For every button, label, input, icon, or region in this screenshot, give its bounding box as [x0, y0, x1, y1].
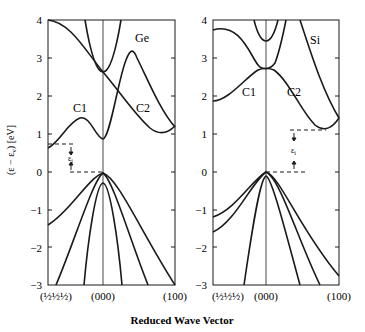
- si-conduction-band-2: [213, 20, 286, 69]
- y-axis-label: (ε − εv) [eV]: [5, 125, 18, 175]
- si-gap-label: εi: [291, 146, 296, 156]
- ge-ytick-3: 3: [37, 52, 43, 64]
- ge-ytick-0: 0: [37, 166, 43, 178]
- si-ytick-m1: −1: [195, 204, 207, 216]
- ge-c2-label: C2: [136, 101, 150, 115]
- ge-xtick-X: (100): [163, 290, 187, 303]
- si-yticks: [213, 58, 339, 247]
- ge-gap-label: εi: [68, 154, 73, 164]
- ge-ytick-m2: −2: [30, 242, 42, 254]
- ge-panel: 4 3 2 1 0 −1 −2 −3 εi Ge C1 C2 (½½½) (00…: [30, 14, 187, 303]
- ge-ytick-1: 1: [37, 128, 43, 140]
- ge-ytick-2: 2: [37, 90, 43, 102]
- ge-ytick-4: 4: [37, 14, 43, 26]
- si-xtick-L: (½½½): [212, 290, 244, 303]
- si-ytick-m3: −3: [195, 279, 207, 291]
- si-ytick-4: 4: [202, 14, 208, 26]
- si-valence-band-split-off: [244, 176, 300, 285]
- si-ytick-2: 2: [202, 90, 208, 102]
- si-xtick-X: (100): [327, 290, 351, 303]
- si-ytick-0: 0: [202, 166, 208, 178]
- si-valence-band-light: [213, 172, 320, 285]
- ge-xtick-L: (½½½): [40, 290, 72, 303]
- ge-xtick-gamma: (000): [91, 290, 115, 303]
- si-ytick-m2: −2: [195, 242, 207, 254]
- ge-label: Ge: [135, 31, 149, 45]
- si-panel: 4 3 2 1 0 −1 −2 −3 εi Si C1 C2 (½½½) (00…: [195, 14, 351, 303]
- si-label: Si: [310, 33, 321, 47]
- si-ytick-3: 3: [202, 52, 208, 64]
- ge-conduction-band-1: [48, 51, 175, 148]
- ge-c1-label: C1: [73, 101, 87, 115]
- si-valence-band-heavy: [213, 172, 339, 276]
- band-structure-figure: 4 3 2 1 0 −1 −2 −3 εi Ge C1 C2 (½½½) (00…: [0, 0, 365, 332]
- ge-valence-band-heavy: [48, 173, 175, 285]
- si-xtick-gamma: (000): [254, 290, 278, 303]
- ge-ytick-m1: −1: [30, 204, 42, 216]
- x-axis-label: Reduced Wave Vector: [130, 314, 233, 326]
- ge-yticks: [48, 58, 175, 247]
- si-c1-label: C1: [242, 85, 256, 99]
- si-c2-label: C2: [287, 85, 301, 99]
- ge-valence-band-light: [56, 173, 148, 285]
- si-ytick-1: 1: [202, 128, 208, 140]
